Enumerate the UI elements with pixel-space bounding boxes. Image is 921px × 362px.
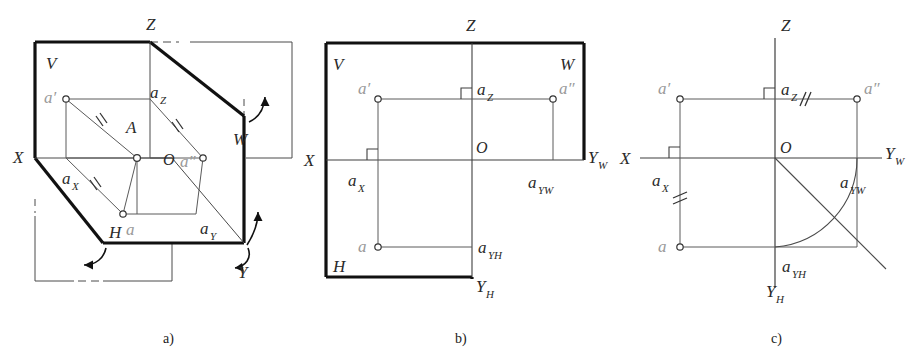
point-a-a xyxy=(120,211,126,217)
svg-text:X: X xyxy=(71,180,80,192)
label-origin-O-a: O xyxy=(163,151,175,168)
figure-background xyxy=(0,0,921,362)
label-point-a-double-prime-c: a″ xyxy=(864,79,881,98)
point-a-double-prime-b xyxy=(550,96,556,102)
figure-canvas: V W H Z X Y a′ A a″ a O a Z a X a Y xyxy=(0,0,921,362)
label-point-a-prime-c: a′ xyxy=(658,79,671,98)
label-axis-Z-c: Z xyxy=(781,16,791,35)
projection-figure: V W H Z X Y a′ A a″ a O a Z a X a Y xyxy=(0,0,921,362)
svg-text:Z: Z xyxy=(791,91,798,103)
point-a-c xyxy=(677,244,683,250)
point-a-prime-a xyxy=(63,96,69,102)
point-a-b xyxy=(375,244,381,250)
label-point-a-prime-a: a′ xyxy=(44,88,57,107)
svg-text:a: a xyxy=(62,169,71,188)
label-axis-Z-b: Z xyxy=(466,16,476,35)
svg-text:Z: Z xyxy=(160,94,167,106)
svg-text:W: W xyxy=(895,155,905,167)
point-a-prime-b xyxy=(375,96,381,102)
label-axis-Y-a: Y xyxy=(238,263,249,282)
label-origin-O-b: O xyxy=(476,139,488,156)
label-plane-W-b: W xyxy=(560,55,576,74)
svg-text:a: a xyxy=(652,171,661,190)
label-point-a-a: a xyxy=(126,220,135,239)
label-axis-Z-a: Z xyxy=(146,15,156,34)
svg-text:YH: YH xyxy=(792,268,807,280)
point-a-double-prime-c xyxy=(854,96,860,102)
svg-text:X: X xyxy=(661,182,670,194)
label-point-a-c: a xyxy=(658,237,667,256)
svg-text:YW: YW xyxy=(538,184,554,196)
svg-text:X: X xyxy=(357,182,366,194)
svg-text:a: a xyxy=(782,257,791,276)
label-point-a-b: a xyxy=(358,237,367,256)
svg-text:a: a xyxy=(150,83,159,102)
label-point-a-double-prime-a: a″ xyxy=(180,152,197,171)
label-plane-H-b: H xyxy=(332,257,347,276)
label-axis-X-b: X xyxy=(303,151,315,170)
svg-text:H: H xyxy=(485,288,495,300)
label-point-a-prime-b: a′ xyxy=(358,79,371,98)
label-axis-X-a: X xyxy=(12,148,24,167)
label-plane-H-a: H xyxy=(108,223,123,242)
label-plane-W-a: W xyxy=(233,130,249,149)
svg-text:H: H xyxy=(775,293,785,305)
label-point-a-double-prime-b: a″ xyxy=(559,79,576,98)
svg-text:a: a xyxy=(200,219,209,238)
svg-text:a: a xyxy=(477,80,486,99)
svg-text:a: a xyxy=(840,173,849,192)
svg-text:a: a xyxy=(348,171,357,190)
caption-c: c) xyxy=(771,331,782,347)
point-a-prime-c xyxy=(677,96,683,102)
svg-text:YH: YH xyxy=(488,249,503,261)
svg-text:Z: Z xyxy=(487,91,494,103)
caption-b: b) xyxy=(455,331,467,347)
svg-text:a: a xyxy=(528,173,537,192)
svg-text:a: a xyxy=(781,80,790,99)
svg-text:a: a xyxy=(478,238,487,257)
svg-text:W: W xyxy=(598,159,608,171)
caption-a: a) xyxy=(163,331,174,347)
label-origin-O-c: O xyxy=(780,139,792,156)
point-a-double-prime-a xyxy=(200,155,206,161)
point-A-a xyxy=(134,155,141,162)
svg-text:YW: YW xyxy=(850,184,866,196)
label-point-A-a: A xyxy=(125,118,137,137)
label-axis-X-c: X xyxy=(619,149,631,168)
